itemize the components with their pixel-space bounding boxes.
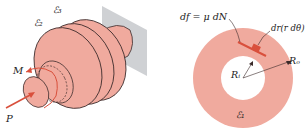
moment-arrowhead-icon <box>26 67 32 73</box>
label-e3: ℰ₃ <box>53 5 62 15</box>
label-force: P <box>5 113 13 124</box>
label-friction: df = μ dN <box>180 11 228 22</box>
annular-friction-surface: df = μ dN dr(r dθ) Rᵢ Rₒ ℰ₁ <box>180 11 304 128</box>
label-e2: ℰ₂ <box>34 18 43 28</box>
label-outer-radius: Rₒ <box>288 55 300 66</box>
clutch-assembly: ℰ₃ ℰ₂ M P <box>5 5 147 124</box>
label-surface: ℰ₁ <box>236 110 245 120</box>
label-moment: M <box>12 65 24 76</box>
label-inner-radius: Rᵢ <box>230 69 240 80</box>
label-element: dr(r dθ) <box>271 23 304 33</box>
disk-clutch-diagram: ℰ₃ ℰ₂ M P df = μ dN dr(r dθ) Rᵢ Rₒ ℰ₁ <box>0 0 307 132</box>
